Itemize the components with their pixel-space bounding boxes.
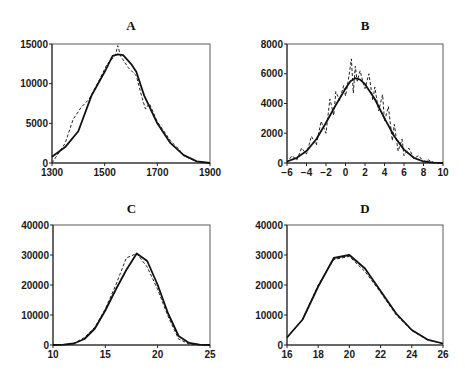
- x-tick-label: 4: [382, 167, 388, 178]
- panel-d: D010000200003000040000161820222426: [255, 201, 449, 360]
- x-tick-label: 18: [313, 349, 325, 360]
- plot-frame: [287, 225, 443, 345]
- panel-title: B: [361, 18, 370, 33]
- plot-frame: [53, 225, 210, 345]
- figure-four-panels: A0500010000150001300150017001900B0200040…: [0, 0, 465, 376]
- x-tick-label: 22: [375, 349, 387, 360]
- panel-title: D: [360, 201, 369, 216]
- y-tick-label: 30000: [255, 250, 283, 261]
- y-tick-label: 15000: [20, 39, 48, 50]
- x-tick-label: 20: [152, 349, 164, 360]
- y-tick-label: 20000: [21, 280, 49, 291]
- x-tick-label: 2: [362, 167, 368, 178]
- x-tick-label: 1500: [94, 167, 117, 178]
- x-tick-label: −6: [281, 167, 293, 178]
- x-tick-label: 0: [343, 167, 349, 178]
- x-tick-label: 20: [344, 349, 356, 360]
- x-tick-label: 10: [437, 167, 449, 178]
- x-tick-label: −4: [301, 167, 313, 178]
- x-tick-label: 8: [421, 167, 427, 178]
- y-tick-label: 10000: [20, 78, 48, 89]
- x-tick-label: 25: [204, 349, 216, 360]
- x-tick-label: 16: [281, 349, 293, 360]
- panel-a: A0500010000150001300150017001900: [20, 18, 221, 178]
- plot-frame: [52, 44, 210, 163]
- series-line-solid: [287, 255, 443, 344]
- y-tick-label: 4000: [261, 98, 284, 109]
- x-tick-label: 1700: [146, 167, 169, 178]
- y-tick-label: 6000: [261, 68, 284, 79]
- x-tick-label: 24: [406, 349, 418, 360]
- x-tick-label: −2: [320, 167, 332, 178]
- y-tick-label: 40000: [21, 220, 49, 231]
- x-tick-label: 10: [47, 349, 59, 360]
- y-tick-label: 5000: [26, 118, 49, 129]
- series-line-solid: [287, 78, 443, 163]
- x-tick-label: 15: [100, 349, 112, 360]
- x-tick-label: 1300: [41, 167, 64, 178]
- panel-b: B02000400060008000−6−4−20246810: [261, 18, 449, 178]
- panel-title: A: [126, 18, 136, 33]
- panel-title: C: [127, 201, 136, 216]
- y-tick-label: 2000: [261, 128, 284, 139]
- series-line-dashed: [53, 254, 210, 346]
- y-tick-label: 8000: [261, 39, 284, 50]
- y-tick-label: 40000: [255, 220, 283, 231]
- y-tick-label: 30000: [21, 250, 49, 261]
- x-tick-label: 6: [401, 167, 407, 178]
- x-tick-label: 1900: [199, 167, 222, 178]
- y-tick-label: 10000: [21, 310, 49, 321]
- y-tick-label: 10000: [255, 310, 283, 321]
- panel-c: C01000020000300004000010152025: [21, 201, 216, 360]
- x-tick-label: 26: [437, 349, 449, 360]
- y-tick-label: 20000: [255, 280, 283, 291]
- series-line-solid: [53, 254, 210, 346]
